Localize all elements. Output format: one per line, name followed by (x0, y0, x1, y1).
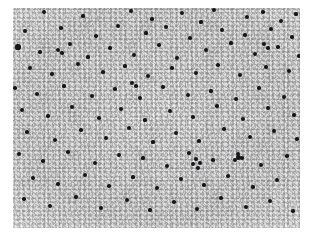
silver-grain (191, 162, 195, 166)
silver-grain (257, 86, 260, 89)
silver-grain (264, 65, 267, 68)
silver-grain (23, 29, 28, 34)
silver-grain (131, 175, 134, 178)
silver-grain (50, 72, 53, 75)
silver-grain (172, 200, 176, 204)
silver-grain (42, 10, 46, 14)
speckle-highlight-layer-c (13, 8, 300, 228)
silver-grain (76, 62, 80, 66)
silver-grain (195, 207, 199, 211)
tissue-clump-texture (13, 8, 300, 228)
speckle-highlight-layer-d (13, 8, 300, 228)
silver-grain (48, 204, 52, 208)
silver-grain (269, 27, 273, 31)
silver-grain (143, 118, 146, 121)
silver-grain (125, 198, 129, 202)
silver-grain (46, 114, 49, 117)
silver-grain (99, 206, 103, 210)
silver-grain (81, 14, 84, 17)
silver-grain (15, 44, 20, 49)
silver-grain (241, 117, 245, 121)
silver-grain (56, 182, 59, 185)
silver-grain (117, 153, 121, 157)
silver-grain (194, 71, 199, 76)
silver-grain (285, 154, 289, 158)
silver-grain (161, 85, 165, 89)
page-root (0, 0, 317, 245)
silver-grain (248, 135, 252, 139)
silver-grain (179, 177, 183, 181)
silver-grain (155, 186, 159, 190)
silver-grain (17, 152, 21, 156)
silver-grain (108, 46, 112, 50)
silver-grain (132, 53, 136, 57)
silver-grain (226, 174, 230, 178)
silver-grain (194, 157, 199, 162)
silver-grain (220, 28, 224, 32)
silver-grain (35, 92, 39, 96)
silver-grain (116, 24, 120, 28)
silver-grain (151, 140, 154, 143)
silver-grain (170, 66, 173, 69)
silver-grain (222, 127, 225, 130)
silver-grain (244, 205, 248, 209)
silver-grain (93, 161, 97, 165)
silver-grain (209, 89, 212, 92)
silver-grain (123, 64, 126, 67)
silver-grain (79, 128, 82, 131)
silver-grain (245, 15, 249, 19)
silver-grain (28, 66, 32, 70)
silver-grain (268, 199, 272, 203)
silver-grain (138, 96, 142, 100)
speckle-layer-a (13, 8, 300, 228)
silver-grain (198, 161, 202, 165)
silver-grain (234, 97, 238, 101)
silver-grain (157, 43, 160, 46)
silver-grain (297, 54, 300, 57)
silver-grain (290, 35, 294, 39)
silver-grain (275, 178, 279, 182)
silver-grain (259, 163, 263, 167)
silver-grain (292, 113, 295, 116)
silver-grain (74, 195, 77, 198)
silver-grain (294, 12, 297, 15)
tissue-base-texture (13, 8, 300, 228)
silver-grain (261, 10, 264, 13)
silver-grain (41, 159, 45, 163)
silver-grain (107, 184, 111, 188)
silver-grain (113, 87, 116, 90)
silver-grain (276, 45, 280, 49)
silver-grain (282, 95, 286, 99)
silver-grain (199, 20, 202, 23)
vignette-layer (13, 8, 300, 228)
silver-grain (25, 130, 29, 134)
silver-grain (86, 55, 89, 58)
silver-grain (144, 31, 147, 34)
silver-grain (101, 70, 105, 74)
softening-layer (13, 8, 300, 228)
silver-grain (83, 173, 87, 177)
silver-grain (53, 138, 57, 142)
silver-grain (272, 129, 276, 133)
silver-grain (31, 176, 35, 180)
silver-grain (13, 86, 17, 90)
silver-grain (291, 209, 294, 212)
silver-grain (295, 137, 299, 141)
fiber-striation-layer (13, 8, 300, 228)
silver-grain (70, 105, 74, 109)
silver-grain (202, 183, 205, 186)
silver-grain (90, 94, 95, 99)
silver-grain (186, 93, 190, 97)
silver-grain (129, 9, 133, 13)
silver-grain (104, 136, 108, 140)
silver-grain (62, 84, 65, 87)
silver-grain (212, 8, 216, 12)
silver-grain (38, 50, 41, 53)
silver-grain (236, 152, 240, 156)
silver-grain (197, 139, 201, 143)
silver-grain (253, 52, 257, 56)
silver-grain (187, 151, 191, 155)
silver-grain (196, 166, 200, 170)
silver-grain (119, 107, 124, 112)
silver-grain (215, 104, 218, 107)
